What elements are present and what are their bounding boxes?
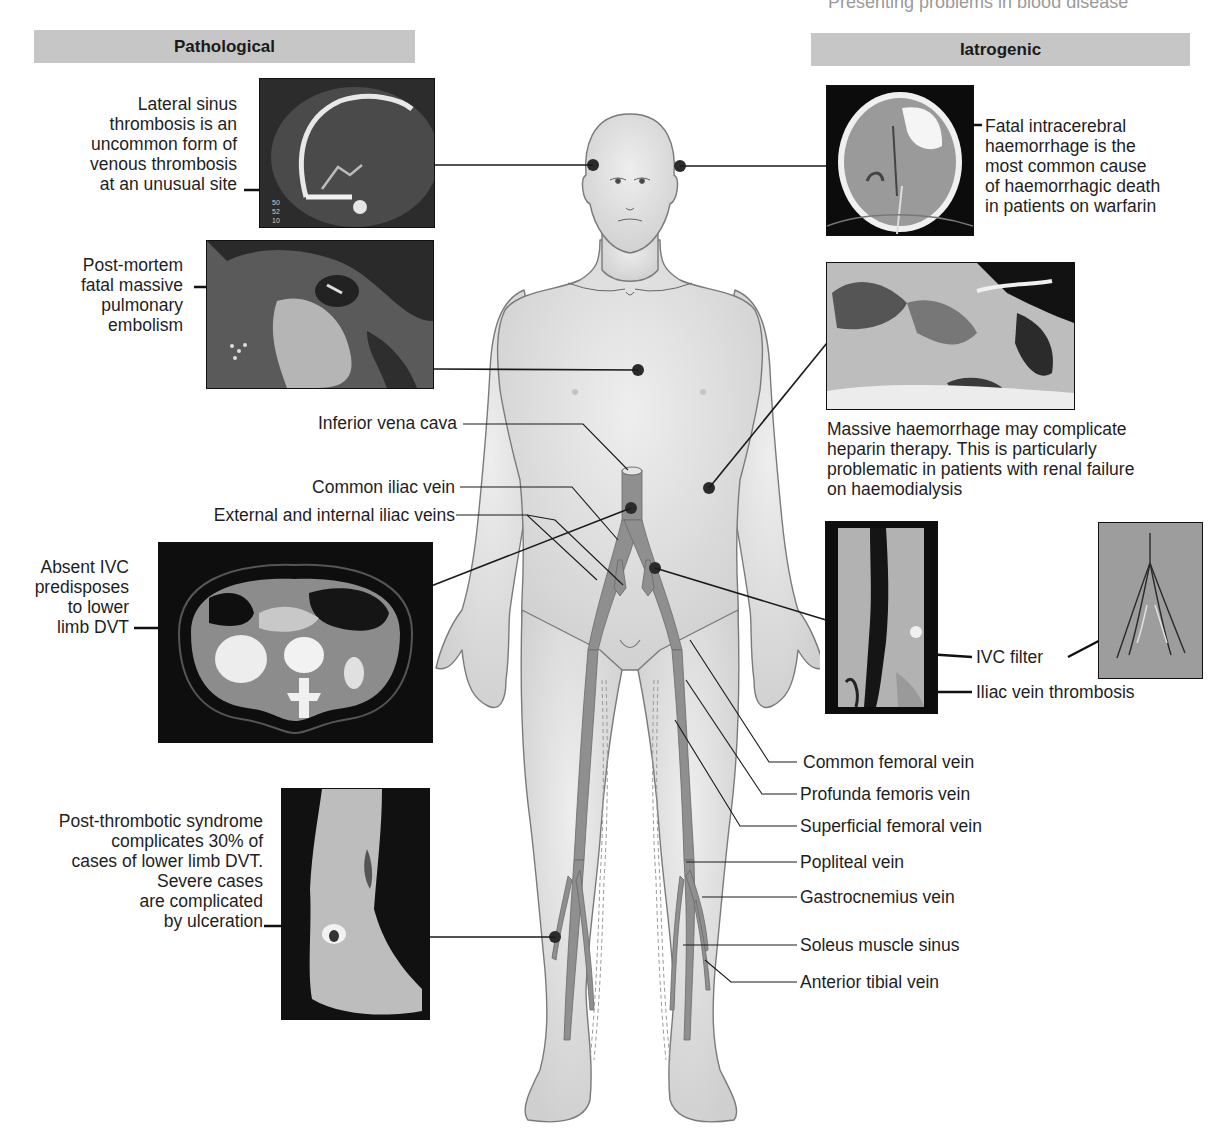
- label-superficial-femoral-vein: Superficial femoral vein: [800, 816, 982, 836]
- label-common-iliac-vein: Common iliac vein: [312, 477, 455, 497]
- image-head-ct: [826, 85, 974, 236]
- image-abdominal-haematoma: [826, 262, 1075, 410]
- caption-heparin-haemorrhage: Massive haemorrhage may complicate hepar…: [827, 419, 1212, 499]
- label-soleus-muscle-sinus: Soleus muscle sinus: [800, 935, 960, 955]
- label-external-internal-iliac-veins: External and internal iliac veins: [214, 505, 455, 525]
- caption-intracerebral-haemorrhage: Fatal intracerebral haemorrhage is the m…: [985, 116, 1212, 216]
- image-abdominal-ct: [158, 542, 433, 743]
- label-common-femoral-vein: Common femoral vein: [803, 752, 974, 772]
- caption-absent-ivc: Absent IVC predisposes to lower limb DVT: [0, 557, 129, 637]
- label-inferior-vena-cava: Inferior vena cava: [318, 413, 457, 433]
- marker-head-left: [587, 159, 599, 171]
- label-profunda-femoris-vein: Profunda femoris vein: [800, 784, 970, 804]
- marker-ivc: [625, 502, 637, 514]
- label-ivc-filter: IVC filter: [976, 647, 1043, 667]
- marker-flank: [703, 482, 715, 494]
- label-iliac-vein-thrombosis: Iliac vein thrombosis: [976, 682, 1135, 702]
- caption-lateral-sinus-thrombosis: Lateral sinus thrombosis is an uncommon …: [40, 94, 237, 194]
- left-leg: [521, 610, 622, 1122]
- image-ivc-filter: [1098, 522, 1203, 679]
- image-mr-venogram-head: 50 52 10: [259, 78, 435, 228]
- label-popliteal-vein: Popliteal vein: [800, 852, 904, 872]
- head: [583, 114, 678, 253]
- image-postmortem-lung: [206, 240, 434, 389]
- label-gastrocnemius-vein: Gastrocnemius vein: [800, 887, 955, 907]
- label-anterior-tibial-vein: Anterior tibial vein: [800, 972, 939, 992]
- section-title-iatrogenic: Iatrogenic: [960, 40, 1041, 60]
- section-bar-pathological: Pathological: [34, 30, 415, 63]
- torso: [498, 240, 763, 670]
- svg-text:52: 52: [272, 208, 280, 215]
- section-title-pathological: Pathological: [174, 37, 275, 57]
- svg-text:10: 10: [272, 217, 280, 224]
- caption-post-thrombotic-syndrome: Post-thrombotic syndrome complicates 30%…: [0, 811, 263, 931]
- marker-head-right: [674, 160, 686, 172]
- body-figure: [420, 80, 820, 1131]
- section-bar-iatrogenic: Iatrogenic: [811, 33, 1190, 66]
- svg-text:50: 50: [272, 199, 280, 206]
- marker-calf: [549, 931, 561, 943]
- marker-chest: [632, 364, 644, 376]
- image-leg-ulcer: [281, 788, 430, 1020]
- marker-iliac: [649, 562, 661, 574]
- caption-pulmonary-embolism: Post-mortem fatal massive pulmonary embo…: [20, 255, 183, 335]
- image-iliac-venogram: [825, 521, 938, 714]
- running-head: Presenting problems in blood disease: [828, 0, 1128, 13]
